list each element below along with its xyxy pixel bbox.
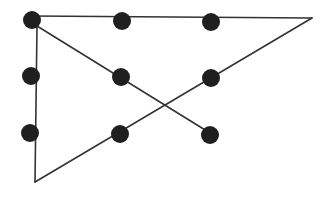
dot-r3-c1 xyxy=(21,124,39,142)
dot-r3-c2 xyxy=(111,125,129,143)
dot-r2-c2 xyxy=(112,68,130,86)
nine-dots-diagram xyxy=(0,0,332,197)
dot-r2-c1 xyxy=(22,67,40,85)
dot-r2-c3 xyxy=(202,69,220,87)
background xyxy=(0,0,332,197)
dot-r1-c2 xyxy=(113,12,131,30)
dot-r1-c3 xyxy=(202,13,220,31)
dot-r1-c1 xyxy=(23,11,41,29)
dot-r3-c3 xyxy=(201,126,219,144)
